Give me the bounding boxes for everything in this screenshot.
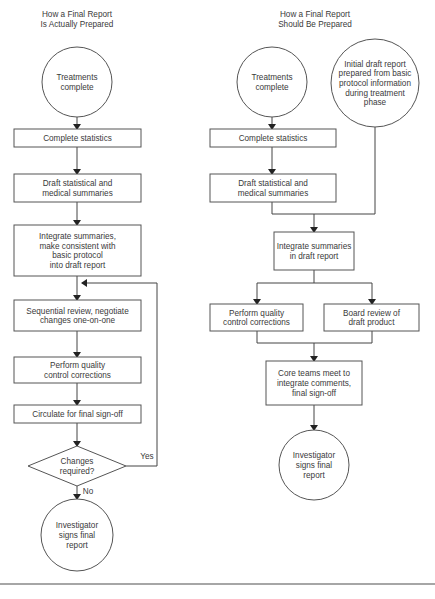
node-label: Draft statistical andmedical summaries [42, 179, 113, 198]
node-label: Treatmentscomplete [56, 73, 97, 92]
connector-arrow [257, 270, 314, 304]
left-node-integrate-summaries-make-consistent-with: Integrate summaries,make consistent with… [14, 225, 141, 276]
edge-label-yes: Yes [140, 452, 153, 461]
node-label: Complete statistics [239, 134, 308, 143]
connector-arrow [314, 283, 372, 304]
right-nodes: TreatmentscompleteInitial draft reportpr… [210, 39, 419, 500]
node-label: Draft statistical andmedical summaries [238, 179, 309, 198]
edge-label-no: No [83, 487, 94, 496]
left-node-investigator-signs-final-report: Investigatorsigns finalreport [41, 499, 113, 571]
left-node-perform-quality-control-corrections: Perform qualitycontrol corrections [14, 357, 141, 383]
left-node-circulate-for-final-sign-off: Circulate for final sign-off [14, 405, 141, 423]
right-node-perform-quality-control-corrections: Perform qualitycontrol corrections [210, 304, 303, 331]
right-node-investigator-signs-final-report: Investigatorsigns finalreport [279, 430, 349, 500]
left-flow-title: How a Final ReportIs Actually Prepared [41, 10, 114, 29]
right-node-core-teams-meet-to-integrate-comments-fi: Core teams meet tointegrate comments,fin… [266, 361, 362, 405]
node-label: Treatmentscomplete [251, 73, 292, 92]
right-node-initial-draft-report-prepared-from-basic: Initial draft reportprepared from basicp… [331, 39, 419, 127]
connector-arrow [257, 331, 372, 343]
node-label: Changesrequired? [60, 457, 95, 476]
left-flow-actual-process: How a Final ReportIs Actually Prepared T… [14, 10, 157, 571]
node-label: Circulate for final sign-off [32, 410, 123, 419]
right-node-integrate-summaries-in-draft-report: Integrate summariesin draft report [274, 232, 354, 270]
left-node-complete-statistics: Complete statistics [14, 129, 141, 147]
right-flow-title: How a Final ReportShould Be Prepared [278, 10, 352, 29]
right-node-draft-statistical-and-medical-summaries: Draft statistical andmedical summaries [210, 174, 336, 202]
node-label: Perform qualitycontrol corrections [44, 361, 111, 380]
node-label: Board review ofdraft product [343, 309, 401, 328]
right-flow-ideal-process: How a Final ReportShould Be Prepared Tre… [210, 10, 419, 500]
left-node-treatments-complete: Treatmentscomplete [42, 47, 112, 117]
right-node-complete-statistics: Complete statistics [210, 129, 336, 147]
left-node-sequential-review-negotiate-changes-one-: Sequential review, negotiatechanges one-… [14, 300, 141, 331]
left-node-draft-statistical-and-medical-summaries: Draft statistical andmedical summaries [14, 174, 141, 202]
right-node-board-review-of-draft-product: Board review ofdraft product [324, 304, 419, 331]
left-node-changes-required: Changesrequired? [28, 446, 126, 486]
flowchart-comparison: How a Final ReportIs Actually Prepared T… [0, 0, 435, 599]
right-node-treatments-complete: Treatmentscomplete [237, 47, 307, 117]
node-label: Perform qualitycontrol corrections [223, 309, 290, 328]
node-label: Complete statistics [43, 134, 112, 143]
node-label: Sequential review, negotiatechanges one-… [26, 307, 129, 326]
